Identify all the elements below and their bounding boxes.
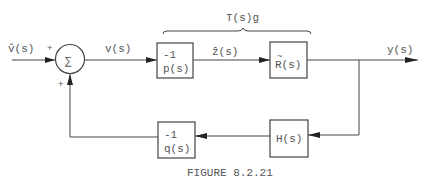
- figure-caption: FIGURE 8.2.21: [187, 167, 273, 179]
- feedback-line-right: [308, 60, 359, 135]
- v-arrow: [146, 57, 157, 63]
- z-arrow: [259, 57, 270, 63]
- block-h-label: H(s): [276, 133, 302, 145]
- feedback-sign: +: [58, 80, 63, 90]
- block-diagram: v̂(s) + ∑ v(s) -1 p(s) ẑ(s) ~ R(s) T(s)…: [0, 0, 425, 181]
- block-q-denominator: q(s): [164, 143, 190, 155]
- feedback-line-left: [70, 74, 158, 137]
- block-p-numerator: -1: [163, 49, 177, 61]
- feedback-arrow: [67, 74, 73, 85]
- output-arrow: [405, 57, 418, 63]
- block-q-numerator: -1: [164, 129, 178, 141]
- input-sign: +: [47, 44, 52, 54]
- block-r-label: R(s): [275, 59, 301, 71]
- summer-symbol: ∑: [65, 55, 72, 67]
- input-arrow: [45, 57, 55, 63]
- v-label: v(s): [105, 43, 131, 55]
- output-label: y(s): [387, 44, 413, 56]
- q-input-arrow: [195, 133, 207, 139]
- z-label: ẑ(s): [212, 46, 238, 58]
- brace: [163, 28, 311, 34]
- block-p-denominator: p(s): [163, 63, 189, 75]
- input-label: v̂(s): [8, 43, 34, 55]
- brace-label: T(s)g: [226, 12, 259, 24]
- h-input-arrow: [308, 132, 320, 138]
